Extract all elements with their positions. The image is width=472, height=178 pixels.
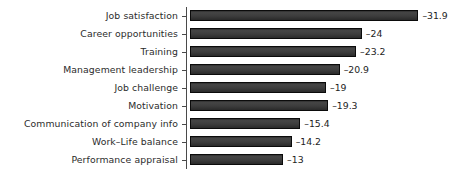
axis-tick xyxy=(182,160,186,161)
category-axis-line xyxy=(186,7,187,169)
bar xyxy=(190,136,292,147)
category-label: Job challenge xyxy=(114,83,178,92)
bar xyxy=(190,46,356,57)
category-label: Communication of company info xyxy=(24,119,178,128)
bar xyxy=(190,118,300,129)
axis-tick xyxy=(182,124,186,125)
category-label: Performance appraisal xyxy=(71,155,178,164)
bar-value-label: –13 xyxy=(287,155,303,164)
axis-tick xyxy=(182,106,186,107)
horizontal-bar-chart: Job satisfactionCareer opportunitiesTrai… xyxy=(0,0,472,178)
category-label: Training xyxy=(141,47,178,56)
bar-value-label: –19 xyxy=(330,83,346,92)
category-axis-labels: Job satisfactionCareer opportunitiesTrai… xyxy=(0,0,178,178)
axis-tick xyxy=(182,70,186,71)
bar-value-label: –23.2 xyxy=(360,47,385,56)
bar-value-label: –14.2 xyxy=(296,137,321,146)
bar xyxy=(190,64,340,75)
axis-tick xyxy=(182,16,186,17)
category-label: Career opportunities xyxy=(80,29,178,38)
bar-value-label: –31.9 xyxy=(422,11,447,20)
category-label: Motivation xyxy=(128,101,178,110)
category-label: Job satisfaction xyxy=(106,11,178,20)
axis-tick xyxy=(182,88,186,89)
category-label: Work–Life balance xyxy=(92,137,178,146)
bar xyxy=(190,82,326,93)
axis-tick xyxy=(182,52,186,53)
category-label: Management leadership xyxy=(63,65,178,74)
bar-value-label: –19.3 xyxy=(332,101,357,110)
axis-tick xyxy=(182,34,186,35)
bar-value-label: –15.4 xyxy=(304,119,329,128)
bar-value-label: –24 xyxy=(366,29,382,38)
bar xyxy=(190,100,328,111)
bar-value-label: –20.9 xyxy=(344,65,369,74)
bar xyxy=(190,10,418,21)
axis-tick xyxy=(182,142,186,143)
bar xyxy=(190,28,362,39)
bar xyxy=(190,154,283,165)
